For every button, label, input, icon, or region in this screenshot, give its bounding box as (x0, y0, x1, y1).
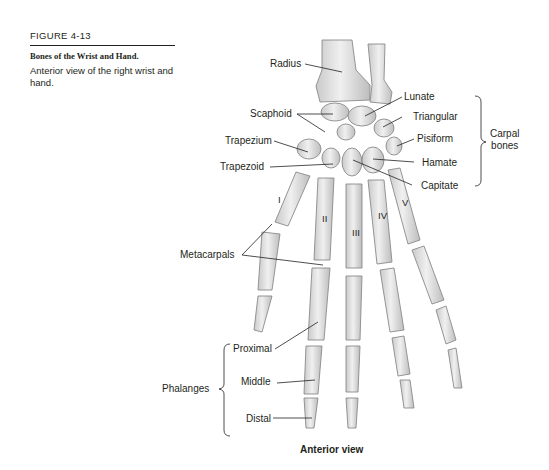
scaphoid-bone (321, 103, 349, 121)
lunate-bone (348, 106, 376, 126)
middle-phalanx-IV (392, 336, 410, 376)
label-trapezium: Trapezium (225, 135, 272, 146)
label-carpal-line1: Carpal (490, 128, 519, 140)
carpal-brace (475, 96, 486, 186)
digit-label-IV: IV (378, 210, 387, 221)
metacarpal-III (346, 184, 362, 268)
digit-label-V: V (402, 197, 408, 208)
label-proximal: Proximal (233, 343, 272, 354)
distal-phalanx-V (448, 348, 462, 388)
metacarpal-IV (368, 180, 392, 264)
middle-phalanx-V (436, 306, 456, 344)
distal-phalanx-IV (400, 380, 414, 408)
trapezoid-bone (322, 148, 340, 168)
proximal-phalanx-II (308, 268, 330, 340)
label-carpal-bones: Carpal bones (490, 128, 519, 152)
triangular-bone (374, 119, 394, 137)
carpal-extra-1 (337, 124, 355, 140)
hamate-bone (362, 147, 384, 173)
label-distal: Distal (246, 413, 271, 424)
label-radius: Radius (270, 58, 301, 69)
ulna-bone (368, 44, 392, 104)
middle-phalanx-II (304, 346, 322, 394)
middle-phalanx-III (346, 346, 360, 392)
digit-label-I: I (278, 194, 281, 205)
label-carpal-line2: bones (490, 140, 519, 152)
capitate-bone (342, 148, 362, 176)
trapezium-bone (297, 139, 321, 159)
distal-phalanx-I (254, 296, 272, 332)
pisiform-bone (386, 137, 402, 155)
label-hamate: Hamate (422, 157, 457, 168)
view-title: Anterior view (300, 444, 363, 455)
radius-bone (316, 40, 370, 102)
digit-label-II: II (322, 213, 327, 224)
proximal-phalanx-V (412, 246, 444, 304)
label-trapezoid: Trapezoid (220, 161, 264, 172)
label-triangular: Triangular (413, 111, 458, 122)
label-lunate: Lunate (404, 91, 435, 102)
proximal-phalanx-IV (380, 268, 404, 332)
proximal-phalanx-III (346, 276, 362, 340)
label-scaphoid: Scaphoid (250, 108, 292, 119)
label-pisiform: Pisiform (417, 133, 453, 144)
distal-phalanx-III (346, 398, 358, 428)
label-capitate: Capitate (421, 180, 458, 191)
digit-label-III: III (352, 227, 360, 238)
proximal-phalanx-I (258, 232, 280, 290)
hand-skeleton-illustration (0, 0, 549, 470)
label-metacarpals: Metacarpals (180, 249, 234, 260)
label-middle: Middle (241, 376, 270, 387)
label-phalanges: Phalanges (162, 383, 209, 394)
phalanges-brace (219, 344, 230, 436)
distal-phalanx-II (304, 398, 318, 428)
